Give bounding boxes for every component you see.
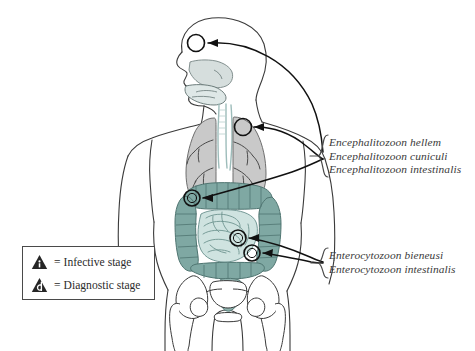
label-encephalitozoon-hellem: Encephalitozoon hellem [329,136,461,150]
label-encephalitozoon-cuniculi: Encephalitozoon cuniculi [329,150,461,164]
label-enterocytozoon-intestinalis: Enterocytozoon intestinalis [329,263,456,277]
pelvis-bones [170,276,286,351]
legend-row-diagnostic-stage: = Diagnostic stage [31,274,141,296]
arrowhead-head [208,39,218,47]
brace-encephalitozoon [310,135,328,177]
label-enterocytozoon-bieneusi: Enterocytozoon bieneusi [329,249,456,263]
infective-stage-triangle-icon [31,254,48,270]
legend-label-diagnostic-stage: Diagnostic stage [64,279,141,292]
label-group-encephalitozoon: Encephalitozoon hellem Encephalitozoon c… [329,136,461,177]
brace-enterocytozoon [311,248,328,278]
legend-label-infective-stage: Infective stage [64,256,132,269]
legend-equals-diagnostic: = [54,279,61,292]
legend-row-infective-stage: = Infective stage [31,251,131,273]
trachea-esophagus [218,104,232,170]
legend-box: = Infective stage = Diagnostic stage [22,246,155,300]
diagram-canvas: Encephalitozoon hellem Encephalitozoon c… [0,0,475,351]
marker-head-circle [188,35,205,52]
nasal-oral-cavity [189,60,233,88]
label-group-enterocytozoon: Enterocytozoon bieneusi Enterocytozoon i… [329,249,456,276]
marker-lower-intestine-inner [247,248,256,257]
label-encephalitozoon-intestinalis: Encephalitozoon intestinalis [329,163,461,177]
diagnostic-stage-triangle-icon [31,277,48,293]
legend-equals-infective: = [54,256,61,269]
